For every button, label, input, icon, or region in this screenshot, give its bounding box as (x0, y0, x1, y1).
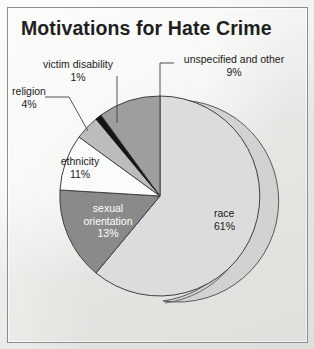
slice-label-victim-disability-name: victim disability (38, 58, 118, 71)
slice-label-race-name: race (214, 207, 235, 220)
slice-label-religion-name: religion (6, 85, 52, 98)
slice-label-race-value: 61% (214, 220, 235, 233)
slice-label-religion: religion 4% (6, 85, 52, 110)
slice-label-sexual-orientation: sexual orientation 13% (58, 202, 158, 240)
slice-label-ethnicity: ethnicity 11% (38, 155, 122, 180)
slice-label-victim-disability-value: 1% (38, 71, 118, 84)
slice-label-victim-disability: victim disability 1% (38, 58, 118, 83)
slice-label-ethnicity-value: 11% (38, 168, 122, 181)
slice-label-ethnicity-name: ethnicity (38, 155, 122, 168)
slice-label-sexual-orientation-line1: sexual (58, 202, 158, 215)
slice-label-unspecified-and-other-name: unspecified and other (172, 53, 296, 66)
slice-label-race: race 61% (214, 207, 235, 232)
slice-label-unspecified-and-other-value: 9% (172, 66, 296, 79)
chart-figure: Motivations for Hate Crime race 61% sexu… (0, 0, 314, 349)
slice-label-sexual-orientation-value: 13% (58, 227, 158, 240)
slice-label-religion-value: 4% (6, 98, 52, 111)
slice-label-unspecified-and-other: unspecified and other 9% (172, 53, 296, 78)
slice-label-sexual-orientation-line2: orientation (58, 215, 158, 228)
